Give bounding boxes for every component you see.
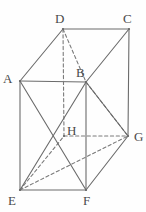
diagonal-bg-solid	[86, 82, 128, 136]
geometry-canvas	[0, 0, 146, 212]
vertex-label-c: C	[123, 12, 132, 25]
edge-bc	[86, 29, 129, 82]
vertex-label-d: D	[55, 12, 64, 25]
vertex-label-h: H	[67, 124, 76, 137]
vertex-point-a	[19, 80, 21, 82]
edge-eh	[20, 136, 64, 190]
vertex-point-g	[127, 135, 129, 137]
vertex-dot-layer	[19, 28, 130, 191]
vertex-point-h	[63, 135, 65, 137]
edge-ab	[20, 81, 86, 82]
edge-da	[20, 29, 63, 81]
vertex-label-f: F	[83, 194, 90, 207]
vertex-label-b: B	[76, 66, 85, 79]
vertex-point-e	[19, 189, 21, 191]
edge-fg	[86, 136, 128, 190]
geometry-figure: ABCDEFGH	[0, 0, 146, 212]
vertex-point-c	[128, 28, 130, 30]
edge-cg	[128, 29, 129, 136]
vertex-label-e: E	[8, 194, 16, 207]
edge-layer	[20, 29, 129, 190]
vertex-label-g: G	[134, 130, 143, 143]
vertex-point-d	[62, 28, 64, 30]
vertex-label-a: A	[3, 72, 12, 85]
vertex-point-f	[85, 189, 87, 191]
vertex-point-b	[85, 81, 87, 83]
